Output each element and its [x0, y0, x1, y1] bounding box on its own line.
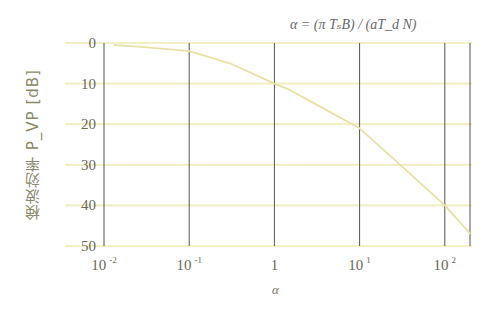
y-tick-label: 0	[89, 35, 97, 51]
x-tick-label: 102	[434, 255, 457, 273]
x-tick-label: 1	[271, 257, 279, 273]
y-tick-label: 30	[81, 157, 96, 173]
horizontal-gridlines	[65, 43, 472, 246]
vertical-gridlines	[104, 43, 470, 246]
x-tick-label: 101	[348, 255, 371, 273]
y-tick-label: 40	[81, 197, 96, 213]
y-tick-label: 20	[81, 116, 96, 132]
chart-plot: 01020304050 10-210-11101102 α	[0, 0, 500, 313]
y-tick-label: 10	[81, 76, 96, 92]
x-tick-label: 10-2	[91, 255, 117, 273]
y-tick-label: 50	[81, 238, 96, 254]
x-axis-label: α	[272, 282, 280, 297]
x-tick-label: 10-1	[176, 255, 202, 273]
y-tick-labels: 01020304050	[81, 35, 96, 254]
x-tick-labels: 10-210-11101102	[91, 255, 456, 273]
